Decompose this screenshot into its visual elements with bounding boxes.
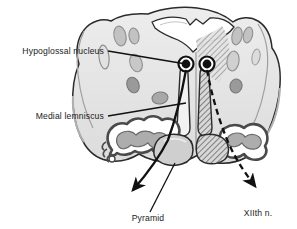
label-pyramid: Pyramid bbox=[132, 213, 165, 223]
label-hypoglossal-nucleus: Hypoglossal nucleus bbox=[22, 46, 104, 56]
leader-pyramid bbox=[150, 163, 175, 212]
medulla-cross-section-figure: Hypoglossal nucleus Medial lemniscus Pyr… bbox=[0, 0, 297, 229]
pyramid-right bbox=[196, 134, 228, 163]
label-xiith-nerve: XIIth n. bbox=[244, 208, 272, 218]
inferior-olivary-nucleus-right-inner bbox=[227, 133, 261, 149]
figure-container: Hypoglossal nucleus Medial lemniscus Pyr… bbox=[0, 0, 297, 229]
label-medial-lemniscus: Medial lemniscus bbox=[36, 111, 104, 121]
medial-lemniscus-right bbox=[198, 68, 212, 136]
hypoglossal-nucleus-right-core bbox=[203, 60, 212, 69]
